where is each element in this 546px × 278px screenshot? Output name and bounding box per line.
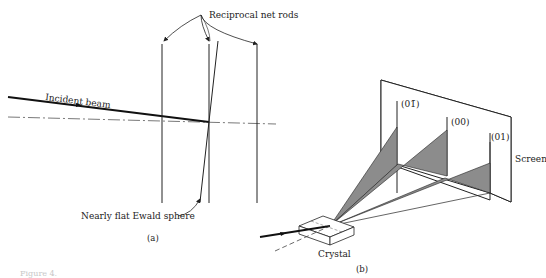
optical-axis-line xyxy=(8,117,276,124)
crystal-label: Crystal xyxy=(318,249,351,259)
panel-b: (01̄) (00) (01) Screen Crystal (b) xyxy=(260,80,546,274)
spot-label-01: (01) xyxy=(491,132,509,142)
panel-a-label: (a) xyxy=(147,233,159,243)
caption-fragment: Figure 4. xyxy=(20,269,57,278)
incident-beam-label: Incident beam xyxy=(45,92,112,110)
spot-label-01bar: (01̄) xyxy=(401,99,419,109)
spot-label-00: (00) xyxy=(451,117,469,127)
rods-label: Reciprocal net rods xyxy=(209,10,299,20)
crystal xyxy=(299,216,354,245)
diffraction-figure: Reciprocal net rods Incident beam Nearly… xyxy=(0,0,546,278)
panel-b-label: (b) xyxy=(356,264,368,274)
screen-label: Screen xyxy=(515,154,546,164)
ewald-sphere-label: Nearly flat Ewald sphere xyxy=(81,211,195,221)
panel-a: Reciprocal net rods Incident beam Nearly… xyxy=(8,10,299,243)
